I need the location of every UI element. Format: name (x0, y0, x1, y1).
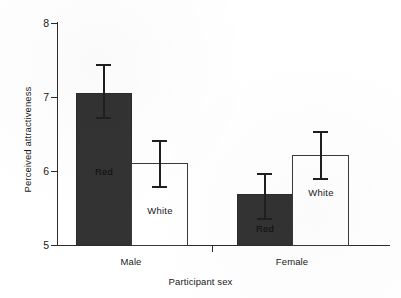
error-bar-stem-female-red (264, 174, 266, 219)
x-tick-label-male: Male (86, 256, 176, 267)
bar-chart: Perceived attractiveness 5 6 7 8 Male Fe… (0, 0, 401, 298)
y-tick-mark-5 (51, 245, 57, 246)
error-bar-cap-bottom-male-white (152, 186, 167, 188)
error-bar-cap-bottom-male-red (96, 117, 111, 119)
y-tick-label-6: 6 (19, 166, 49, 176)
x-tick-mark-center (212, 246, 213, 252)
error-bar-stem-male-red (103, 65, 105, 118)
bar-label-female-red: Red (235, 223, 295, 234)
y-axis-title: Perceived attractiveness (22, 65, 33, 215)
y-tick-mark-8 (51, 23, 57, 24)
x-tick-label-female: Female (247, 256, 337, 267)
y-tick-label-5: 5 (19, 240, 49, 250)
scan-grain-overlay (0, 0, 401, 298)
bar-label-male-red: Red (74, 166, 134, 177)
y-tick-label-7: 7 (19, 92, 49, 102)
y-tick-mark-7 (51, 97, 57, 98)
y-tick-mark-6 (51, 171, 57, 172)
error-bar-cap-top-male-white (152, 140, 167, 142)
error-bar-cap-bottom-female-red (257, 218, 272, 220)
y-tick-label-8: 8 (19, 18, 49, 28)
y-axis-line (57, 22, 58, 246)
error-bar-stem-male-white (159, 141, 161, 187)
error-bar-stem-female-white (320, 132, 322, 179)
bar-label-female-white: White (291, 187, 351, 198)
error-bar-cap-bottom-female-white (313, 178, 328, 180)
error-bar-cap-top-female-red (257, 173, 272, 175)
x-axis-title: Participant sex (0, 276, 401, 287)
error-bar-cap-top-female-white (313, 131, 328, 133)
error-bar-cap-top-male-red (96, 64, 111, 66)
bar-label-male-white: White (130, 205, 190, 216)
